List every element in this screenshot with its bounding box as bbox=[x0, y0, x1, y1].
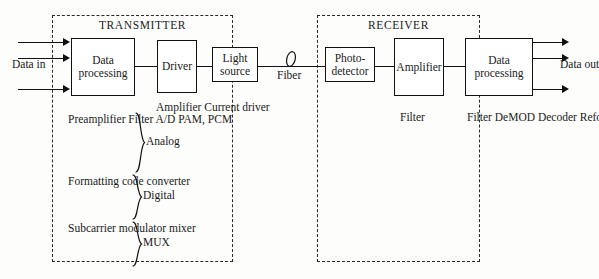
tx-group-analog-item-2: A/D bbox=[156, 113, 176, 125]
tx-group-mux-label: MUX bbox=[143, 236, 170, 248]
rx-amplifier-notes: Filter bbox=[400, 110, 425, 125]
rx-data-processing-line1: Data bbox=[474, 54, 523, 67]
fiber-label: Fiber bbox=[277, 69, 301, 83]
transmitter-title: TRANSMITTER bbox=[52, 19, 233, 31]
rx-dp-note-2: Decoder bbox=[538, 111, 577, 123]
data-in-arrow-3 bbox=[63, 85, 70, 93]
data-in-label: Data in bbox=[12, 58, 46, 72]
data-in-arrow-1 bbox=[63, 38, 70, 46]
tx-light-source-line1: Light bbox=[220, 52, 250, 65]
tx-group-analog-item-3: PAM, PCM bbox=[178, 113, 232, 125]
rx-photodetector-block[interactable]: Photo- detector bbox=[325, 47, 375, 82]
data-out-wire-3 bbox=[533, 89, 565, 90]
tx-light-source-block[interactable]: Light source bbox=[212, 47, 258, 82]
rx-dp-note-3: Reformatting bbox=[580, 111, 599, 123]
tx-group-analog-brace-icon bbox=[135, 112, 146, 173]
tx-data-processing-line1: Data bbox=[78, 54, 127, 67]
tx-group-mux-item-2: mixer bbox=[169, 222, 196, 234]
tx-group-digital-brace-icon bbox=[132, 174, 143, 220]
data-out-arrow-1 bbox=[562, 38, 569, 46]
tx-light-source-line2: source bbox=[220, 65, 250, 78]
data-out-line1: Data bbox=[560, 58, 582, 70]
tx-data-processing-block[interactable]: Data processing bbox=[71, 38, 135, 96]
data-out-label: Data out bbox=[560, 58, 599, 72]
tx-group-digital-item-0: Formatting bbox=[68, 175, 119, 187]
rx-amplifier-block[interactable]: Amplifier bbox=[394, 38, 444, 96]
data-in-wire-3 bbox=[18, 89, 64, 90]
rx-amplifier-note-0: Filter bbox=[400, 111, 425, 123]
tx-group-analog-items: Preamplifier Filter A/D PAM, PCM bbox=[68, 112, 232, 127]
rx-photodetector-line2: detector bbox=[331, 65, 368, 78]
rx-dp-note-0: Filter bbox=[467, 111, 492, 123]
data-in-arrow-2 bbox=[63, 54, 70, 62]
data-in-line1: Data bbox=[12, 58, 34, 70]
wire-amplifier-to-rxdp bbox=[444, 66, 465, 67]
data-in-wire-2 bbox=[18, 58, 64, 59]
tx-group-mux-item-0: Subcarrier bbox=[68, 222, 116, 234]
tx-driver-block[interactable]: Driver bbox=[157, 40, 197, 93]
rx-data-processing-block[interactable]: Data processing bbox=[465, 38, 533, 96]
tx-group-digital-items: Formatting code converter bbox=[68, 174, 190, 189]
data-out-arrow-3 bbox=[562, 85, 569, 93]
block-diagram-canvas: TRANSMITTER RECEIVER Data in Data proces… bbox=[0, 0, 599, 279]
tx-driver-label: Driver bbox=[162, 60, 192, 73]
rx-dp-note-1: DeMOD bbox=[495, 111, 535, 123]
data-in-line2: in bbox=[37, 58, 46, 70]
rx-amplifier-label: Amplifier bbox=[396, 61, 441, 74]
tx-group-mux-brace-icon bbox=[132, 221, 143, 267]
tx-group-analog-label: Analog bbox=[146, 135, 180, 147]
tx-group-digital-item-2: converter bbox=[147, 175, 190, 187]
tx-group-analog-item-0: Preamplifier bbox=[68, 113, 125, 125]
rx-photodetector-line1: Photo- bbox=[331, 52, 368, 65]
wire-photodetector-to-amplifier bbox=[375, 66, 394, 67]
rx-data-processing-notes: Filter DeMOD Decoder Reformatting DeMUX … bbox=[467, 110, 599, 125]
tx-group-digital-label: Digital bbox=[143, 189, 175, 201]
rx-data-processing-line2: processing bbox=[474, 67, 523, 80]
wire-driver-to-source bbox=[197, 66, 212, 67]
receiver-title: RECEIVER bbox=[317, 19, 480, 31]
data-in-wire-1 bbox=[18, 42, 64, 43]
wire-txdp-to-driver bbox=[135, 66, 157, 67]
tx-data-processing-line2: processing bbox=[78, 67, 127, 80]
data-out-wire-1 bbox=[533, 42, 565, 43]
data-out-line2: out bbox=[585, 58, 599, 70]
